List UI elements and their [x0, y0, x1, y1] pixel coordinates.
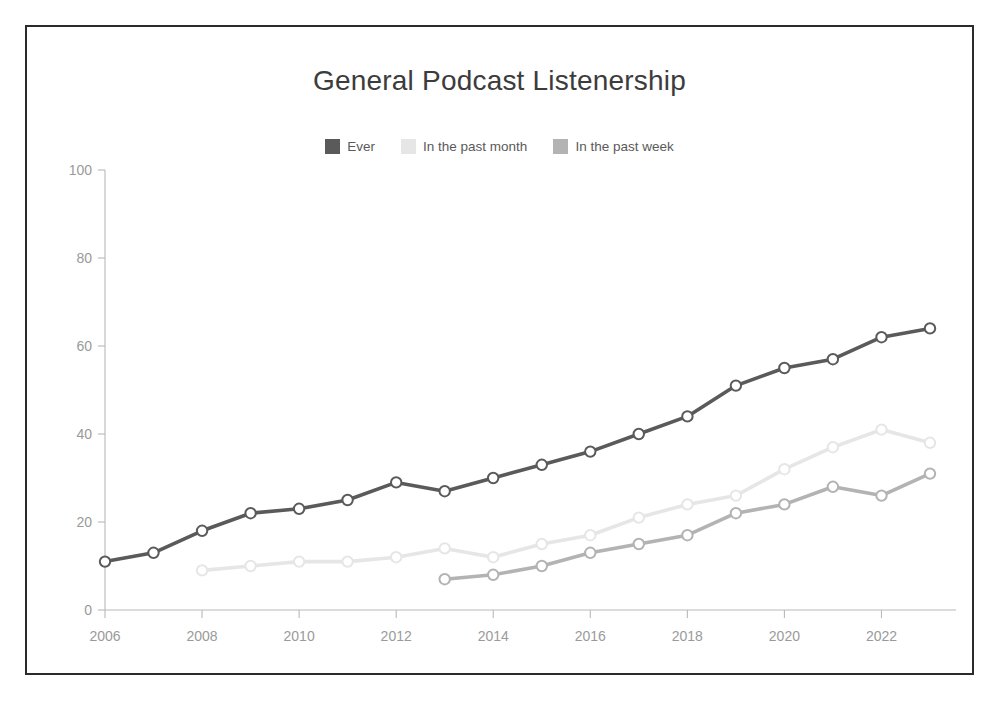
data-point[interactable] [828, 482, 838, 492]
series-line-in-the-past-week [445, 474, 930, 580]
y-axis-ticks: 020406080100 [69, 162, 105, 618]
data-point[interactable] [245, 561, 255, 571]
x-tick-label: 2022 [866, 628, 897, 644]
x-tick-label: 2012 [381, 628, 412, 644]
chart-card: General Podcast Listenership Ever In the… [27, 27, 972, 673]
data-point[interactable] [876, 424, 886, 434]
y-tick-label: 100 [69, 162, 93, 178]
data-point[interactable] [100, 556, 110, 566]
data-point[interactable] [391, 552, 401, 562]
y-tick-label: 60 [76, 338, 92, 354]
data-point[interactable] [245, 508, 255, 518]
data-point[interactable] [391, 477, 401, 487]
data-point[interactable] [197, 526, 207, 536]
x-axis-ticks: 200620082010201220142016201820202022 [89, 610, 897, 644]
series-in-the-past-week [440, 468, 936, 584]
data-point[interactable] [294, 556, 304, 566]
data-point[interactable] [294, 504, 304, 514]
series-line-ever [105, 328, 930, 561]
data-point[interactable] [585, 548, 595, 558]
data-point[interactable] [925, 468, 935, 478]
data-point[interactable] [731, 490, 741, 500]
y-tick-label: 0 [84, 602, 92, 618]
chart-frame-border: General Podcast Listenership Ever In the… [25, 25, 974, 675]
data-point[interactable] [537, 460, 547, 470]
data-point[interactable] [440, 486, 450, 496]
data-point[interactable] [876, 332, 886, 342]
y-tick-label: 20 [76, 514, 92, 530]
x-tick-label: 2008 [186, 628, 217, 644]
data-point[interactable] [682, 411, 692, 421]
data-point[interactable] [828, 354, 838, 364]
series-line-in-the-past-month [202, 430, 930, 571]
x-tick-label: 2010 [284, 628, 315, 644]
data-point[interactable] [779, 499, 789, 509]
chart-axes [105, 170, 956, 610]
data-point[interactable] [876, 490, 886, 500]
data-point[interactable] [585, 446, 595, 456]
data-point[interactable] [585, 530, 595, 540]
data-point[interactable] [197, 565, 207, 575]
data-point[interactable] [342, 495, 352, 505]
data-point[interactable] [537, 539, 547, 549]
data-point[interactable] [682, 530, 692, 540]
y-tick-label: 40 [76, 426, 92, 442]
data-point[interactable] [779, 464, 789, 474]
data-point[interactable] [634, 512, 644, 522]
data-point[interactable] [148, 548, 158, 558]
data-point[interactable] [682, 499, 692, 509]
data-point[interactable] [488, 473, 498, 483]
series-ever [100, 323, 935, 567]
x-tick-label: 2016 [575, 628, 606, 644]
data-point[interactable] [731, 380, 741, 390]
data-point[interactable] [925, 323, 935, 333]
plot-area-wrapper: 020406080100 200620082010201220142016201… [27, 27, 976, 673]
series-in-the-past-month [197, 424, 935, 575]
data-point[interactable] [342, 556, 352, 566]
data-point[interactable] [488, 570, 498, 580]
data-point[interactable] [440, 543, 450, 553]
data-point[interactable] [828, 442, 838, 452]
data-point[interactable] [440, 574, 450, 584]
chart-series-group [100, 323, 935, 584]
data-point[interactable] [488, 552, 498, 562]
x-tick-label: 2018 [672, 628, 703, 644]
data-point[interactable] [537, 561, 547, 571]
data-point[interactable] [925, 438, 935, 448]
y-tick-label: 80 [76, 250, 92, 266]
data-point[interactable] [634, 429, 644, 439]
page-root: General Podcast Listenership Ever In the… [0, 0, 1001, 706]
data-point[interactable] [731, 508, 741, 518]
data-point[interactable] [779, 363, 789, 373]
data-point[interactable] [634, 539, 644, 549]
line-chart-svg: 020406080100 200620082010201220142016201… [27, 27, 976, 673]
x-tick-label: 2006 [89, 628, 120, 644]
x-tick-label: 2020 [769, 628, 800, 644]
x-tick-label: 2014 [478, 628, 509, 644]
